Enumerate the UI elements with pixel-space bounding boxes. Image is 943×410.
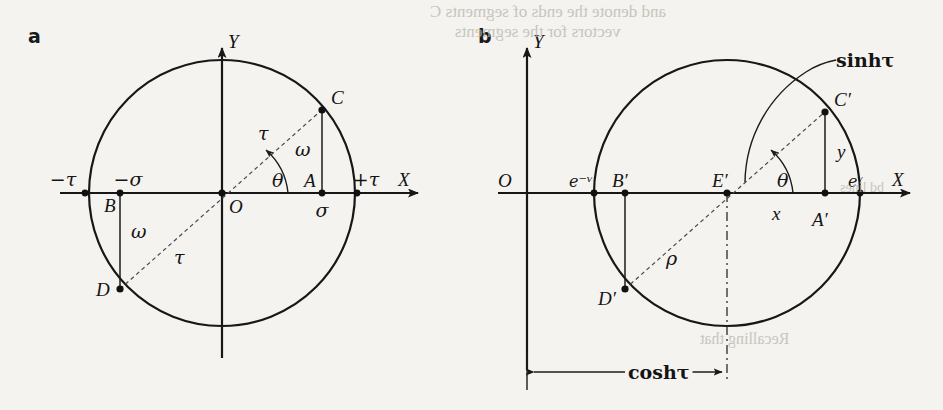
- panel-a-point-o: [218, 189, 225, 196]
- figure-svg: a Y X: [0, 0, 943, 410]
- panel-a-point-a: [319, 190, 326, 197]
- panel-b-label-sinh-tau: sinhτ: [836, 49, 894, 71]
- panel-a-point-c: [318, 106, 325, 113]
- panel-a-label-d: D: [95, 279, 110, 300]
- panel-b-label-e-minus-tau: e⁻ᵛ: [569, 172, 593, 191]
- panel-b-label-theta: θ: [777, 169, 789, 191]
- panel-b-y-axis-label: Y: [533, 31, 546, 52]
- panel-a-y-axis-label: Y: [228, 31, 241, 52]
- panel-b-label-e-prime: E′: [711, 170, 729, 191]
- panel-a-label-theta: θ: [272, 169, 284, 191]
- panel-a-point-plus-tau: [354, 190, 361, 197]
- panel-b-label-cosh-tau: coshτ: [628, 361, 690, 383]
- panel-b-point-c-prime: [821, 108, 828, 115]
- panel-a-label-tau-lower: τ: [174, 246, 185, 268]
- panel-a-label-omega-lower: ω: [131, 220, 147, 242]
- panel-b-point-d-prime: [621, 285, 628, 292]
- panel-b-label-origin: O: [498, 170, 512, 191]
- panel-b-label-c-prime: C′: [834, 89, 852, 110]
- panel-a-label-c: C: [331, 87, 344, 108]
- panel-b: b: [478, 25, 910, 390]
- panel-b-label-rho: ρ: [665, 247, 678, 269]
- panel-a-label-plus-tau: +τ: [353, 168, 380, 190]
- panel-a-point-minus-tau: [82, 190, 89, 197]
- panel-b-label-d-prime: D′: [597, 288, 617, 309]
- panel-a-point-b: [117, 190, 124, 197]
- panel-a-x-axis-label: X: [397, 169, 411, 190]
- panel-b-letter: b: [478, 25, 492, 47]
- panel-b-diameter-dc: [625, 110, 827, 289]
- panel-a-label-minus-sigma: −σ: [114, 168, 144, 190]
- panel-b-label-a-prime: A′: [810, 209, 829, 230]
- panel-b-sinh-leader-arc: [745, 72, 806, 182]
- panel-a-label-a: A: [302, 170, 316, 191]
- panel-b-x-axis-label: X: [891, 169, 905, 190]
- panel-b-label-x-coord: x: [771, 203, 781, 224]
- panel-b-label-b-prime: B′: [612, 170, 629, 191]
- panel-a-label-omega-upper: ω: [295, 138, 311, 160]
- panel-a-label-o: O: [229, 196, 243, 217]
- panel-b-sinh-leader-tail: [806, 60, 836, 72]
- panel-b-label-y-coord: y: [835, 141, 846, 162]
- panel-a-label-sigma: σ: [316, 199, 330, 221]
- panel-a-label-minus-tau: −τ: [50, 168, 77, 190]
- panel-a-label-b: B: [104, 195, 116, 216]
- figure-root: and denote the ends of segments Cvectors…: [0, 0, 943, 410]
- panel-b-point-a-prime: [822, 190, 829, 197]
- panel-a: a Y X: [28, 25, 418, 358]
- panel-a-letter: a: [28, 25, 41, 47]
- panel-a-label-tau-upper: τ: [258, 122, 269, 144]
- panel-b-label-e-tau: eᵛ: [848, 172, 863, 191]
- panel-a-point-d: [116, 285, 123, 292]
